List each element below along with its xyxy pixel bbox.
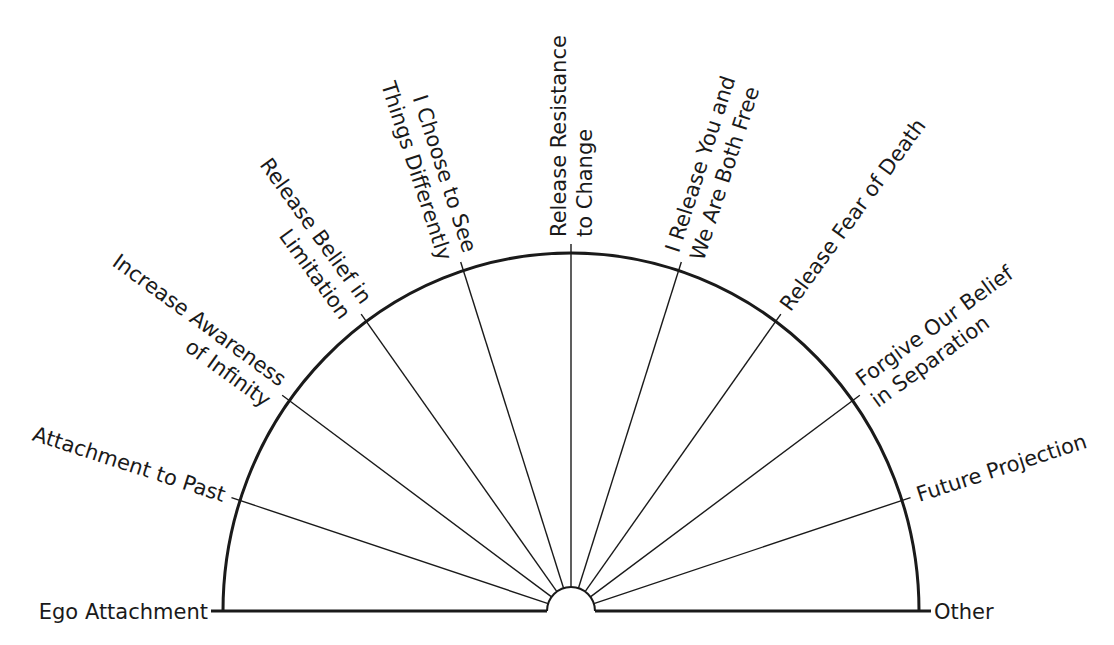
spoke-label: Release Resistanceto Change (547, 35, 597, 237)
label-ego-attachment: Ego Attachment (39, 600, 208, 624)
pendulum-chart: Ego Attachment Other Attachment to PastI… (0, 0, 1114, 645)
label-other: Other (934, 600, 994, 624)
spoke-tick (769, 317, 782, 326)
spoke-line (585, 314, 781, 591)
spoke-label-line: Future Projection (913, 429, 1089, 507)
spoke-label: Increase Awarenessof Infinity (93, 249, 291, 412)
spoke-label: I Choose to SeeThings Differently (376, 70, 482, 264)
spoke-tick (285, 394, 294, 407)
inner-semicircle (547, 587, 595, 611)
spoke-line (590, 395, 859, 597)
spoke-line (578, 262, 681, 588)
spoke-label: Future Projection (913, 429, 1089, 507)
spoke-tick (848, 394, 857, 407)
spoke-label: Release Fear of Death (775, 114, 930, 315)
spoke-label: Release Belief inLimitation (234, 154, 377, 324)
chart-labels: Ego Attachment Other Attachment to PastI… (30, 35, 1090, 624)
spoke-label-line: Release Fear of Death (775, 114, 930, 315)
spoke-line (282, 395, 551, 597)
spoke-label: Attachment to Past (30, 422, 229, 507)
spoke-label-line: Attachment to Past (30, 422, 229, 507)
spoke-line (361, 314, 557, 591)
spoke-line (231, 498, 548, 604)
spoke-label: Forgive Our Beliefin Separation (851, 261, 1033, 412)
spoke-tick (360, 317, 373, 326)
spoke-label-line: to Change (573, 129, 597, 237)
spoke-label-line: Release Resistance (547, 35, 571, 237)
spoke-line (594, 498, 911, 604)
spoke-label: I Release You andWe Are Both Free (661, 73, 765, 263)
spoke-line (461, 262, 564, 588)
spoke-label-line: Increase Awareness (108, 249, 291, 391)
